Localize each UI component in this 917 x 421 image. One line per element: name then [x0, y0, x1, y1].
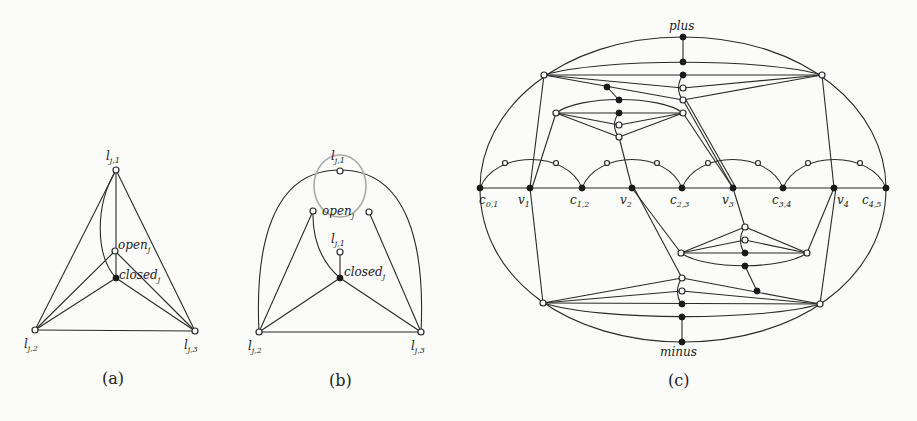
node-l-j2: [256, 329, 262, 335]
gadget-node: [742, 224, 748, 230]
gadget-node: [819, 72, 825, 78]
label-l-j3: lj,3: [184, 338, 198, 354]
label-v4: v4: [837, 193, 849, 209]
edge: [35, 170, 116, 330]
caption-a: (a): [102, 369, 124, 388]
label-plus: plus: [669, 19, 694, 33]
edge-to-v3: [686, 100, 736, 188]
edge: [35, 278, 116, 330]
gadget-node: [616, 122, 622, 128]
label-c12: c1,2: [570, 193, 589, 209]
gadget-node: [616, 134, 622, 140]
gadget-node: [679, 288, 685, 294]
label-l-j1: lj,1: [106, 149, 120, 165]
gadget-node: [553, 110, 559, 116]
panel-a: lj,1 openj closedj lj,2 lj,3 (a): [24, 149, 198, 388]
node-l-j2: [32, 327, 38, 333]
gadget-edge: [683, 75, 822, 100]
gadget-edge: [681, 240, 745, 253]
curved-edge: [100, 170, 116, 278]
node-l-j1-inner: [337, 249, 343, 255]
node-l-j3: [418, 329, 424, 335]
node-plus: [680, 34, 686, 40]
arc-node: [554, 161, 559, 166]
gadget-node: [540, 300, 546, 306]
gadget-edge: [556, 113, 619, 137]
edge-from-v3: [733, 188, 745, 227]
edge-to-v1: [532, 113, 556, 188]
gadget-edge: [745, 227, 807, 253]
label-c34: c3,4: [772, 193, 791, 209]
label-minus: minus: [660, 345, 697, 359]
arc-node: [706, 161, 711, 166]
edge-from-v4: [807, 188, 834, 253]
node-c23: [679, 185, 685, 191]
gadget-node: [742, 263, 748, 269]
label-v1: v1: [518, 193, 530, 209]
gadget-node: [680, 59, 686, 65]
gadget-edge: [619, 113, 683, 125]
edge-from-v1: [530, 188, 543, 303]
label-l-j1-inner: lj,1: [331, 232, 345, 248]
node-c34: [780, 185, 786, 191]
gadget-edge: [745, 266, 757, 291]
edge: [35, 330, 195, 331]
arc-node: [655, 161, 660, 166]
node-c01: [477, 185, 483, 191]
label-v3: v3: [722, 193, 734, 209]
gadget-node: [680, 85, 686, 91]
gadget-edge: [682, 291, 820, 304]
gadget-node: [680, 97, 686, 103]
label-l-j2: lj,2: [24, 337, 38, 353]
arc-c34-c45: [783, 160, 886, 189]
gadget-edge: [683, 75, 822, 88]
gadget-edge: [544, 75, 683, 100]
node-v3: [730, 185, 736, 191]
arc-node: [858, 161, 863, 166]
edge: [115, 251, 195, 331]
label-l-j3: lj,3: [411, 339, 425, 355]
gadget-edge: [682, 278, 820, 304]
gadget-node: [541, 72, 547, 78]
gadget-node: [742, 250, 748, 256]
label-v2: v2: [620, 193, 632, 209]
node-l-j1: [113, 167, 119, 173]
caption-b: (b): [329, 371, 352, 390]
gadget-edge: [681, 227, 745, 253]
gadget-node: [678, 250, 684, 256]
gadget-node: [680, 72, 686, 78]
gadget-edge: [543, 291, 682, 303]
panel-b: lj,1 openj lj,1 closedj lj,2 lj,3 (b): [248, 149, 425, 390]
gadget-node: [679, 314, 685, 320]
node-l-j1-top: [337, 168, 343, 174]
gadget-node: [817, 301, 823, 307]
gadget-edge: [544, 75, 683, 88]
gadget-node: [679, 301, 685, 307]
caption-c: (c): [668, 371, 689, 390]
edge-to-v3: [683, 113, 733, 188]
edge: [35, 251, 115, 330]
node-closed-j: [337, 275, 343, 281]
edge-from-v4: [820, 188, 836, 304]
gadget-node: [754, 288, 760, 294]
gadget-edge: [556, 113, 619, 125]
node-c12: [579, 185, 585, 191]
label-c01: c0,1: [479, 193, 498, 209]
label-closed-j: closedj: [119, 268, 161, 284]
gadget-node: [680, 110, 686, 116]
arc-node: [503, 161, 508, 166]
edge-to-v2: [619, 137, 632, 188]
node-open-j-left: [310, 208, 316, 214]
label-l-j1-top: lj,1: [331, 149, 345, 165]
node-c45: [883, 185, 889, 191]
figure-canvas: lj,1 openj closedj lj,2 lj,3 (a) lj,1 op…: [0, 0, 917, 421]
arc-node: [806, 161, 811, 166]
gadget-node: [742, 237, 748, 243]
arc-node: [605, 161, 610, 166]
label-c23: c2,3: [670, 193, 689, 209]
node-open-j-right: [366, 209, 372, 215]
node-l-j3: [192, 328, 198, 334]
arc-c12-c23: [582, 160, 682, 189]
edge-to-v4: [822, 75, 834, 188]
gadget-edge: [543, 278, 682, 303]
